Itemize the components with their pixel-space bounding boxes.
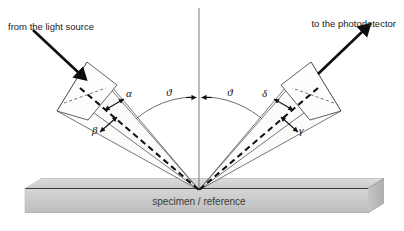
light-source-label: from the light source [8, 21, 94, 32]
optics-diagram-figure: specimen / reference α β [0, 0, 404, 231]
alpha-label: α [126, 87, 132, 99]
incident-beam-group: α β [57, 62, 199, 190]
substrate-label: specimen / reference [152, 196, 246, 207]
light-source-callout: from the light source [8, 21, 94, 74]
diagram-canvas: specimen / reference α β [0, 0, 404, 231]
beta-label: β [91, 124, 98, 136]
theta-right-label: ϑ [227, 86, 233, 98]
photodetector-label: to the photodetector [311, 18, 396, 29]
delta-label: δ [262, 87, 268, 99]
photodetector-arrow [318, 30, 364, 74]
photodetector-callout: to the photodetector [311, 18, 396, 74]
gamma-label: γ [299, 124, 304, 136]
light-source-arrow [33, 30, 80, 74]
theta-left-label: ϑ [166, 86, 172, 98]
reflected-beam-group: δ γ [199, 62, 341, 190]
